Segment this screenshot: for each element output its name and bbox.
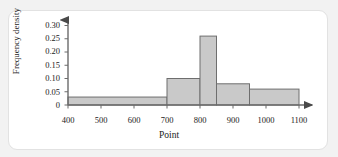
histogram-bar xyxy=(217,84,250,105)
histogram-chart: Frequency density Point 0 0.05 0.10 0.15… xyxy=(0,0,338,157)
histogram-bars xyxy=(68,36,299,105)
histogram-bar xyxy=(200,36,217,105)
plot-area xyxy=(0,0,338,157)
screenshot-root: Frequency density Point 0 0.05 0.10 0.15… xyxy=(0,0,338,157)
histogram-bar xyxy=(250,89,300,105)
histogram-bar xyxy=(68,97,167,105)
histogram-bar xyxy=(167,79,200,106)
